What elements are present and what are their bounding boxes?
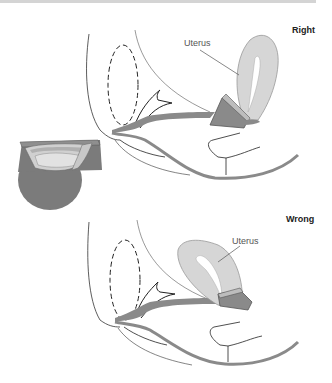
pubic-bone-outline	[108, 45, 138, 125]
menstrual-cup-placement-diagram	[0, 0, 332, 383]
folded-cup-illustration	[18, 140, 102, 210]
pubic-bone-outline	[110, 240, 140, 320]
panel-label-right: Right	[292, 25, 315, 35]
panel-wrong	[88, 220, 298, 365]
uterus-label-top: Uterus	[184, 38, 211, 48]
panel-label-wrong: Wrong	[286, 214, 314, 224]
panel-right	[87, 30, 298, 178]
uterus-label-bottom: Uterus	[232, 236, 259, 246]
